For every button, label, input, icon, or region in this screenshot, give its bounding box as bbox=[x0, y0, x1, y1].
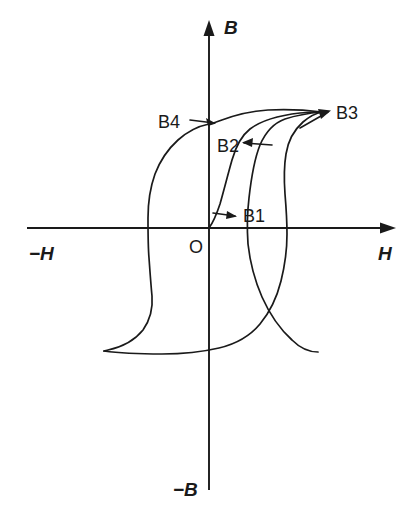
origin-label: O bbox=[189, 237, 203, 257]
axis-label-negative-h: −H bbox=[29, 243, 55, 264]
label-group: B −B H −H O B4 B2 B1 B3 bbox=[29, 17, 393, 500]
axis-group bbox=[27, 20, 396, 490]
hysteresis-loop-figure: B −B H −H O B4 B2 B1 B3 bbox=[0, 0, 410, 510]
hysteresis-loop-svg: B −B H −H O B4 B2 B1 B3 bbox=[0, 0, 410, 510]
point-label-b2: B2 bbox=[217, 136, 239, 156]
leader-group bbox=[190, 109, 331, 219]
descending-branch-right bbox=[247, 112, 322, 352]
horizontal-axis-arrow-icon bbox=[380, 223, 396, 234]
ascending-branch bbox=[104, 112, 322, 354]
axis-label-negative-b: −B bbox=[173, 479, 198, 500]
initial-magnetisation-curve bbox=[209, 112, 322, 228]
b2-leader-arrow-icon bbox=[242, 138, 253, 147]
point-label-b4: B4 bbox=[158, 112, 180, 132]
b1-leader-arrow-icon bbox=[226, 211, 237, 219]
axis-label-h: H bbox=[378, 243, 393, 264]
point-label-b3: B3 bbox=[336, 103, 358, 123]
hysteresis-curve-group bbox=[104, 110, 322, 354]
vertical-axis-arrow-icon bbox=[204, 20, 215, 36]
axis-label-b: B bbox=[224, 17, 238, 38]
point-label-b1: B1 bbox=[243, 206, 265, 226]
